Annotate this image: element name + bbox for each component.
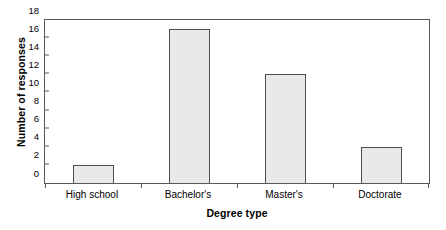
y-tick-label: 0 [34,169,45,179]
x-tick-mark [237,183,238,188]
plot-area: 024681012141618 [44,19,430,184]
bar-2 [265,74,306,183]
x-tick-label: Doctorate [332,190,428,200]
x-tick-label: Bachelor's [140,190,236,200]
x-tick-mark [141,183,142,188]
y-tick-label: 14 [28,42,45,52]
y-tick-label: 16 [28,24,45,34]
x-tick-label: Master's [236,190,332,200]
bar-1 [169,29,210,183]
x-tick-mark [333,183,334,188]
y-tick-label: 18 [28,6,45,16]
bar-3 [361,147,402,183]
y-tick-mark [45,73,49,74]
bar-chart: Number of responses 024681012141618 High… [0,0,446,230]
y-tick-label: 12 [28,60,45,70]
bar-0 [73,165,114,183]
y-tick-label: 4 [34,133,45,143]
x-tick-label: High school [44,190,140,200]
y-tick-mark [45,91,49,92]
y-tick-label: 6 [34,114,45,124]
y-tick-mark [45,145,49,146]
x-tick-mark [45,183,46,188]
y-tick-mark [45,37,49,38]
y-tick-label: 8 [34,96,45,106]
x-tick-mark [428,183,429,188]
y-tick-mark [45,127,49,128]
y-tick-mark [45,109,49,110]
y-tick-mark [45,163,49,164]
y-axis-title: Number of responses [14,0,28,184]
y-tick-label: 10 [28,78,45,88]
x-axis-title: Degree type [44,207,430,219]
y-tick-mark [45,55,49,56]
y-tick-label: 2 [34,151,45,161]
